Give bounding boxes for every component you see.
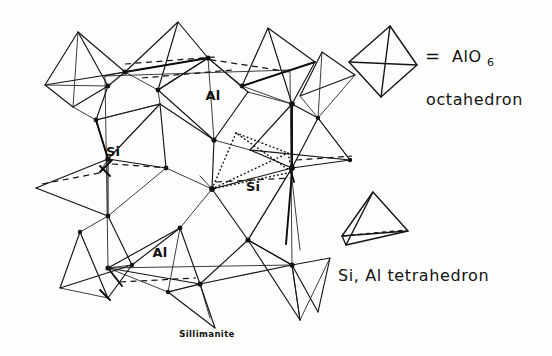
legend-label-octahedron: octahedron xyxy=(426,90,523,109)
legend-formula-alo6-subscript: 6 xyxy=(487,56,494,69)
unit-cell-frame xyxy=(105,70,292,268)
legend-formula-alo6: AlO xyxy=(452,47,482,66)
polyhedron-top-centre xyxy=(125,22,208,90)
sillimanite-figure: Al Si Si Al = AlO 6 octahedron xyxy=(0,0,552,356)
legend-equals-octahedron: = xyxy=(425,45,440,66)
diagram-canvas: Al Si Si Al = AlO 6 octahedron xyxy=(0,0,552,356)
polyhedron-top-left xyxy=(45,32,125,107)
figure-caption: Sillimanite xyxy=(179,329,235,339)
structure-label-al-bottom: Al xyxy=(153,245,168,260)
legend-label-tetrahedron: Si, Al tetrahedron xyxy=(338,266,489,285)
polyhedron-centre-al xyxy=(158,58,248,140)
polyhedron-right-upper xyxy=(300,52,355,118)
polyhedron-centre-si xyxy=(200,140,300,250)
polyhedron-right-centre xyxy=(250,104,352,168)
legend-tetrahedron-group: Si, Al tetrahedron xyxy=(338,192,489,285)
octahedron-icon xyxy=(349,26,417,97)
legend-octahedron-group: = AlO 6 octahedron xyxy=(349,26,523,109)
main-structure-group: Al Si Si Al xyxy=(36,22,355,328)
polyhedron-right-lower xyxy=(292,258,330,320)
structure-label-si-centre: Si xyxy=(246,179,260,194)
structure-label-al-top: Al xyxy=(206,88,221,103)
tetrahedron-icon xyxy=(342,192,408,245)
polyhedron-left-mid xyxy=(36,159,110,216)
polyhedron-bottom-centre xyxy=(168,284,215,328)
structure-label-si-left: Si xyxy=(106,144,120,159)
polyhedron-left-lower xyxy=(60,216,132,300)
